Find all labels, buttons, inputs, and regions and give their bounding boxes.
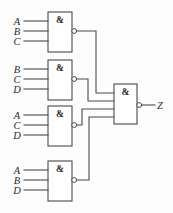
- interconnect-gate-2-to-output: [77, 79, 114, 101]
- gate-3-symbol: &: [56, 109, 64, 119]
- interconnect-gate-1-to-output: [77, 31, 114, 93]
- gate-output-symbol: &: [122, 87, 130, 97]
- gate-3-input-label-3: D: [12, 130, 21, 141]
- gate-4-symbol: &: [56, 164, 64, 174]
- output-label-z: Z: [157, 100, 163, 111]
- gate-output-inversion-bubble: [137, 103, 142, 108]
- gate-4-input-label-3: D: [12, 185, 21, 196]
- gate-4[interactable]: & A B D: [12, 161, 76, 201]
- interconnect-gate-4-to-output: [77, 117, 114, 180]
- gate-2-inversion-bubble: [72, 77, 77, 82]
- gate-1-inversion-bubble: [72, 29, 77, 34]
- circuit-canvas: & A B C & B C D &: [0, 0, 173, 213]
- gate-1[interactable]: & A B C: [13, 12, 77, 52]
- gate-4-inversion-bubble: [72, 178, 77, 183]
- gate-3-inversion-bubble: [72, 123, 77, 128]
- gate-2-input-label-3: D: [12, 84, 21, 95]
- gate-1-symbol: &: [56, 15, 64, 25]
- gate-1-input-label-3: C: [13, 36, 21, 47]
- gate-3[interactable]: & A C D: [12, 106, 76, 146]
- gate-2[interactable]: & B C D: [12, 60, 76, 100]
- gate-2-symbol: &: [56, 63, 64, 73]
- gate-output[interactable]: & Z: [114, 84, 163, 124]
- logic-circuit-diagram: & A B C & B C D &: [0, 0, 173, 213]
